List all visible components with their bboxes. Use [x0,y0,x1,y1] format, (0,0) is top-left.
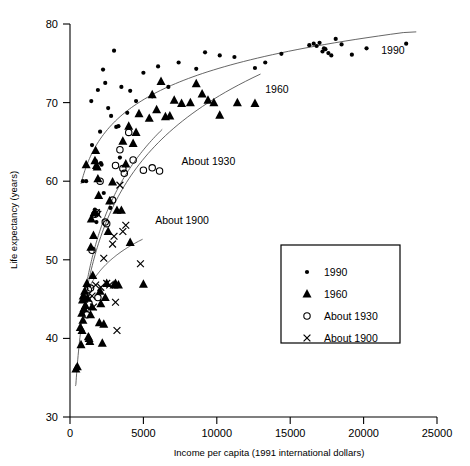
x-tick-label: 15000 [275,427,306,439]
curve-label: About 1900 [155,214,209,226]
data-point-filled-circle [253,66,257,70]
data-point-filled-circle [84,179,88,183]
data-point-filled-circle [194,67,198,71]
data-point-filled-circle [232,55,236,59]
data-point-filled-circle [134,99,138,103]
data-point-filled-circle [94,159,98,163]
data-point-filled-circle [339,42,343,46]
data-point-filled-circle [112,49,116,53]
data-point-filled-circle [90,143,94,147]
data-point-filled-circle [150,94,154,98]
data-point-filled-circle [404,42,408,46]
data-point-filled-circle [118,156,122,160]
data-point-filled-circle [329,53,333,57]
data-point-filled-circle [279,52,283,56]
data-point-filled-circle [101,67,105,71]
y-tick-label: 30 [46,411,58,423]
legend-label-about-1900: About 1900 [324,332,378,344]
curve-label: About 1930 [182,155,236,167]
data-point-filled-circle [364,46,368,50]
data-point-filled-circle [350,53,354,57]
data-point-filled-circle [99,163,103,167]
data-point-filled-circle [96,88,100,92]
y-tick-label: 40 [46,332,58,344]
data-point-filled-circle [307,43,311,47]
data-point-filled-circle [108,206,112,210]
data-point-filled-circle [98,130,102,134]
data-point-filled-circle [116,124,120,128]
data-point-filled-circle [177,60,181,64]
y-axis-title: Life expectancy (years) [8,171,19,269]
legend: 19901960About 1930About 1900 [281,245,400,344]
data-point-filled-circle [323,47,327,51]
data-point-filled-circle [305,270,309,274]
y-tick-label: 60 [46,175,58,187]
data-point-filled-circle [93,207,97,211]
legend-label-1990: 1990 [324,266,348,278]
data-point-filled-circle [334,37,338,41]
data-point-filled-circle [315,44,319,48]
legend-label-about-1930: About 1930 [324,310,378,322]
chart-figure: 304050607080 0500010000150002000025000 1… [0,0,470,466]
y-tick-label: 50 [46,254,58,266]
data-point-filled-circle [94,220,98,224]
data-point-filled-circle [102,191,106,195]
data-point-filled-circle [89,99,93,103]
scatter-plot-svg: 304050607080 0500010000150002000025000 1… [0,0,470,466]
x-tick-label: 20000 [348,427,379,439]
y-tick-label: 70 [46,97,58,109]
data-point-filled-circle [156,64,160,68]
data-point-filled-circle [109,114,113,118]
x-tick-label: 5000 [131,427,155,439]
data-point-filled-circle [317,41,321,45]
data-point-filled-circle [119,85,123,89]
data-point-filled-circle [203,50,207,54]
data-point-filled-circle [128,89,132,93]
data-point-filled-circle [263,60,267,64]
x-tick-label: 25000 [422,427,453,439]
curve-label: 1960 [265,83,289,95]
data-point-filled-circle [141,71,145,75]
data-point-filled-circle [103,81,107,85]
x-tick-label: 0 [67,427,73,439]
data-point-filled-circle [166,85,170,89]
x-tick-label: 10000 [202,427,233,439]
data-point-filled-circle [218,53,222,57]
legend-label-1960: 1960 [324,288,348,300]
data-point-filled-circle [106,106,110,110]
x-axis-title: Income per capita (1991 international do… [174,447,365,458]
y-tick-label: 80 [46,18,58,30]
curve-label: 1990 [381,44,405,56]
data-point-filled-circle [125,111,129,115]
